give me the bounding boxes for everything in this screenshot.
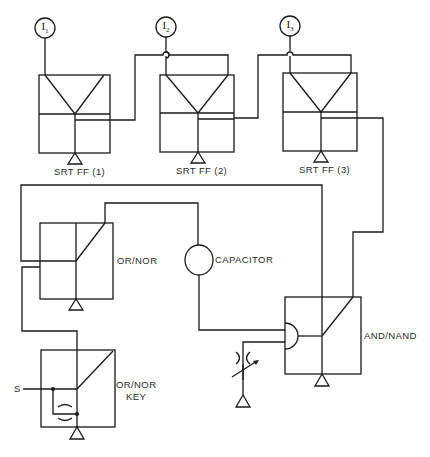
capacitor: [185, 245, 213, 275]
srt-ff-1: [39, 75, 110, 164]
srt-ff-3: [283, 73, 357, 162]
label-srt-ff-2: SRT FF (2): [176, 165, 227, 176]
label-or-nor: OR/NOR: [117, 255, 157, 266]
ground-icon: [191, 152, 205, 163]
wire-or-to-key: [22, 267, 77, 350]
ground-icon: [70, 427, 84, 439]
srt-ff-2: [160, 75, 234, 163]
wire-and-to-or: [21, 185, 322, 297]
label-or-nor-key: OR/NOR KEY: [116, 379, 156, 403]
ground-icon: [69, 299, 83, 310]
wire-capacitor-to-and: [199, 275, 285, 330]
wire-or-to-capacitor: [105, 203, 198, 245]
label-srt-ff-1: SRT FF (1): [54, 166, 105, 177]
input-label-i2: I2: [156, 19, 176, 34]
wire-ff2-to-ff3: [234, 52, 351, 118]
label-capacitor: CAPACITOR: [215, 254, 273, 265]
ground-icon: [236, 395, 250, 407]
or-nor-gate: [40, 223, 113, 310]
label-srt-ff-3: SRT FF (3): [299, 164, 350, 175]
logic-circuit-diagram: [0, 0, 430, 457]
label-and-nand: AND/NAND: [364, 330, 417, 341]
input-label-i1: I1: [35, 20, 55, 35]
label-signal-s: S: [14, 383, 21, 394]
ground-icon: [315, 374, 329, 386]
ground-icon: [314, 151, 328, 162]
and-symbol: [285, 323, 298, 349]
key-contact-icon: [58, 405, 72, 408]
and-nand-gate: [285, 297, 361, 386]
or-nor-key: [23, 350, 115, 439]
variable-capacitor: [232, 342, 285, 407]
wire-ff1-to-ff2: [110, 52, 228, 120]
ground-icon: [68, 153, 82, 164]
input-label-i3: I3: [280, 18, 300, 33]
